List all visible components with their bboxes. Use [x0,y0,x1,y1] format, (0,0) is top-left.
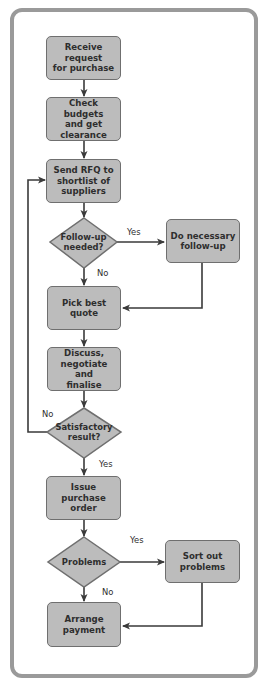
node-discuss-negotiate: Discuss, negotiate and finalise [47,347,121,391]
node-sort-out-problems: Sort out problems [165,540,240,583]
edge-label-no-problems: No [102,587,113,597]
node-send-rfq: Send RFQ to shortlist of suppliers [46,159,121,203]
edge-label-yes-problems: Yes [130,535,144,545]
edge-label-yes-followup: Yes [127,227,141,237]
edge-d2-n3 [28,180,47,432]
node-do-followup: Do necessary follow-up [166,219,240,263]
node-receive-request: Receive request for purchase [46,36,121,80]
decision-followup-label: Follow-up needed? [50,230,117,254]
edge-label-no-satisfactory: No [42,409,53,419]
node-issue-po: Issue purchase order [46,476,121,520]
node-arrange-payment: Arrange payment [47,602,121,647]
edge-n8-n9 [123,583,202,626]
node-pick-best-quote: Pick best quote [47,286,121,330]
edge-label-yes-satisfactory: Yes [99,459,113,469]
edge-n4-n5 [123,263,202,308]
node-check-budgets: Check budgets and get clearance [46,97,121,141]
decision-satisfactory-label: Satisfactory result? [47,420,121,444]
decision-problems-label: Problems [48,556,120,568]
edge-label-no-followup: No [97,268,108,278]
